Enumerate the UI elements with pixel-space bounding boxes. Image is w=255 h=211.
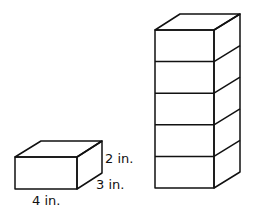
- stack-side-face: [214, 14, 240, 188]
- small-box-front-face: [15, 157, 77, 189]
- depth-label: 3 in.: [96, 177, 124, 192]
- layer-divider: [214, 46, 240, 62]
- layer-divider: [214, 140, 240, 156]
- layer-divider: [214, 109, 240, 125]
- layer-divider: [214, 77, 240, 93]
- height-label: 2 in.: [105, 151, 133, 166]
- stack-front-face: [155, 30, 214, 188]
- diagram: 2 in. 3 in. 4 in.: [0, 0, 255, 211]
- small-box: [15, 141, 102, 189]
- box-stack: [155, 14, 240, 188]
- width-label: 4 in.: [32, 193, 60, 208]
